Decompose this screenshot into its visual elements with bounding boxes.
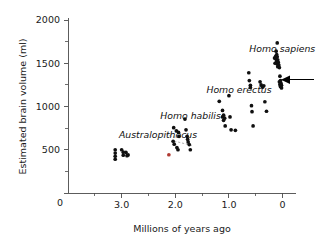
data-point bbox=[217, 99, 221, 103]
y-tick-label: 1000 bbox=[36, 101, 60, 112]
y-tick-label: 1500 bbox=[36, 58, 60, 69]
data-point bbox=[250, 110, 254, 114]
x-tick-label: 3.0 bbox=[114, 199, 129, 210]
data-point bbox=[278, 66, 282, 70]
plot-canvas: 50010001500200003.02.01.00 Australopithe… bbox=[0, 0, 316, 241]
marker-arrow-icon bbox=[281, 75, 314, 83]
data-point bbox=[250, 104, 254, 108]
data-point bbox=[113, 157, 117, 161]
data-point bbox=[187, 143, 191, 147]
data-points bbox=[113, 41, 283, 161]
data-point bbox=[247, 79, 251, 83]
y-tick-label: 500 bbox=[42, 144, 60, 155]
data-point bbox=[188, 148, 192, 152]
data-point bbox=[113, 151, 117, 155]
data-point bbox=[113, 148, 117, 152]
series-australopithecus bbox=[113, 148, 130, 161]
species-labels: AustralopithecusHomo habilisHomo erectus… bbox=[118, 43, 315, 140]
data-point bbox=[263, 100, 267, 104]
brain-volume-scatter-figure: 50010001500200003.02.01.00 Australopithe… bbox=[0, 0, 316, 241]
data-point bbox=[221, 109, 225, 113]
y-tick-label: 2000 bbox=[36, 14, 60, 25]
y-axis-title: Estimated brain volume (ml) bbox=[17, 39, 28, 175]
series-homo-erectus bbox=[217, 71, 268, 132]
data-point bbox=[167, 153, 171, 157]
x-axis-title: Millions of years ago bbox=[133, 223, 231, 234]
data-point bbox=[278, 74, 282, 78]
series-australopithecus-highlighted bbox=[167, 153, 171, 157]
x-tick-label: 1.0 bbox=[221, 199, 236, 210]
data-point bbox=[229, 128, 233, 132]
data-point bbox=[223, 124, 227, 128]
x-tick-label: 0 bbox=[280, 199, 286, 210]
data-point bbox=[228, 115, 232, 119]
data-point bbox=[121, 153, 125, 157]
label-homo-erectus: Homo erectus bbox=[206, 84, 271, 95]
data-point bbox=[280, 86, 284, 90]
data-point bbox=[234, 128, 238, 132]
data-point bbox=[251, 124, 255, 128]
data-point bbox=[125, 154, 129, 158]
axis-origin-label: 0 bbox=[57, 197, 63, 208]
data-point bbox=[247, 71, 251, 75]
x-tick-label: 2.0 bbox=[168, 199, 183, 210]
data-point bbox=[176, 148, 180, 152]
label-homo-sapiens: Homo sapiens bbox=[249, 43, 315, 54]
data-point bbox=[273, 61, 277, 65]
data-point bbox=[265, 109, 269, 113]
label-australopithecus: Australopithecus bbox=[118, 129, 197, 140]
label-homo-habilis: Homo habilis bbox=[160, 110, 221, 121]
data-point bbox=[222, 118, 226, 122]
data-point bbox=[273, 56, 277, 60]
data-point bbox=[172, 142, 176, 146]
